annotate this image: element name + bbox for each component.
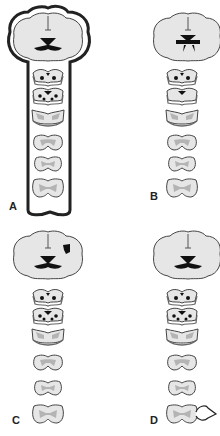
cord-section-3 (166, 110, 198, 126)
cord-section-4 (34, 355, 63, 370)
cord-section-5 (169, 381, 196, 395)
cord-section-1 (167, 290, 197, 307)
panel-b: B (110, 0, 220, 218)
cord-section-5 (35, 381, 62, 395)
panel-label-b: B (150, 190, 158, 202)
panel-c-diagram (0, 218, 110, 436)
cord-section-2 (33, 308, 63, 325)
cord-section-6 (167, 405, 198, 423)
panel-d-diagram (110, 218, 220, 436)
cord-section-3 (32, 329, 64, 345)
panel-b-diagram (110, 0, 220, 218)
cord-section-3 (32, 110, 64, 126)
cord-section-4 (168, 135, 197, 150)
panel-label-c: C (12, 414, 20, 426)
panel-d: D (110, 218, 220, 436)
cord-section-2 (33, 88, 63, 105)
nerve-root-lesion-arrow (196, 406, 216, 420)
cord-section-5 (169, 157, 196, 171)
brain-section (154, 231, 220, 279)
cord-section-2 (167, 88, 197, 105)
cord-section-1 (167, 70, 197, 87)
cord-section-2 (167, 308, 197, 325)
cord-section-3 (166, 329, 198, 345)
panel-c: C (0, 218, 110, 436)
cord-section-1 (33, 70, 63, 87)
panel-label-d: D (150, 414, 158, 426)
cord-section-6 (33, 179, 64, 197)
cord-section-6 (33, 405, 64, 423)
cord-section-4 (34, 135, 63, 150)
panel-label-a: A (9, 200, 17, 212)
cord-section-1 (33, 290, 63, 307)
cord-section-5 (35, 157, 62, 171)
cord-section-6 (167, 179, 198, 197)
panel-a: A (0, 0, 110, 218)
cord-section-4 (168, 355, 197, 370)
panel-a-diagram (0, 0, 110, 218)
